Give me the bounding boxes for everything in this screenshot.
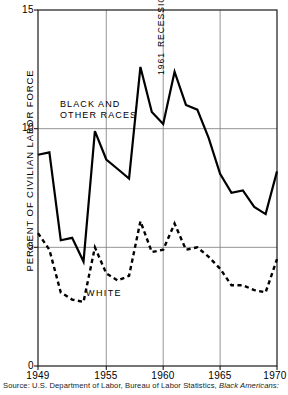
x-tick-label-1955: 1955 — [86, 370, 126, 381]
annotation-black-other-races-line2: OTHER RACES — [60, 110, 137, 121]
annotation-white: WHITE — [86, 288, 122, 299]
annotation-black-other-races: BLACK AND OTHER RACES — [60, 99, 137, 121]
annotation-recession-word: RECESSION — [156, 0, 166, 47]
annotation-1961-recession: 1961RECESSION — [156, 0, 166, 75]
annotation-black-other-races-line1: BLACK AND — [60, 99, 137, 110]
source-italic-title: Black Americans: — [219, 381, 279, 390]
annotation-recession-year: 1961 — [156, 52, 166, 75]
x-tick-label-1965: 1965 — [200, 370, 240, 381]
x-tick-label-1949: 1949 — [18, 370, 58, 381]
y-tick-label-5: 5 — [8, 241, 34, 252]
series-line-black-and-other-races — [38, 67, 277, 262]
source-caption: Source: U.S. Department of Labor, Bureau… — [3, 381, 279, 390]
x-tick-label-1970: 1970 — [255, 370, 288, 381]
chart-plot-area — [0, 0, 288, 395]
annotation-white-label: WHITE — [86, 288, 122, 298]
series-line-white — [38, 221, 277, 302]
y-tick-label-15: 15 — [8, 4, 34, 15]
source-prefix: Source: U.S. Department of Labor, Bureau… — [3, 381, 217, 390]
x-tick-label-1960: 1960 — [143, 370, 183, 381]
y-tick-label-10: 10 — [8, 122, 34, 133]
unemployment-by-race-chart: PERCENT OF CIVILIAN LABOR FORCE 15 10 5 … — [0, 0, 288, 395]
